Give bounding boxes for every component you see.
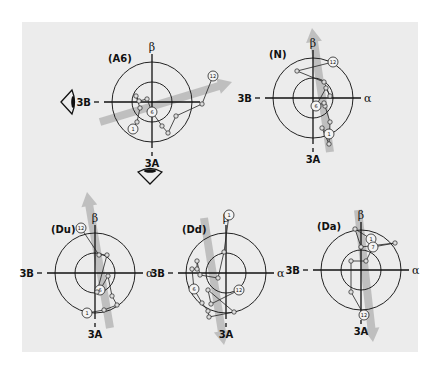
trace-point-label: 12 [330, 59, 336, 65]
panel-label: (N) [269, 49, 287, 60]
trace-point [320, 126, 324, 130]
axis-label-top: β [310, 37, 316, 50]
axis-label-left: 3B [19, 268, 34, 279]
axis-label-left: 3B [237, 93, 252, 104]
trace-point [216, 276, 220, 280]
trace-point-label: 6 [192, 286, 195, 292]
trace-point [206, 288, 210, 292]
trace-point-label: 12 [361, 312, 367, 318]
trace-point [349, 290, 353, 294]
trace-point [353, 227, 357, 231]
trace-point [95, 290, 99, 294]
trace-point [174, 114, 178, 118]
trace-point [295, 69, 299, 73]
trace-point [97, 253, 101, 257]
panel-a6: β3B3A(A6)1612 [76, 41, 232, 169]
direction-arrow [200, 217, 230, 345]
axis-label-top: β [149, 41, 155, 54]
trace-point-label: 1 [131, 126, 134, 132]
trace-point [102, 308, 106, 312]
eye-left-icon [61, 90, 75, 114]
trace-point-label: 12 [236, 287, 242, 293]
trace-point [209, 302, 213, 306]
trace-point [137, 99, 141, 103]
trace-point [190, 267, 194, 271]
axis-label-bottom: 3A [88, 329, 103, 340]
trace-point [206, 309, 210, 313]
axis-label-left: 3B [76, 97, 91, 108]
panel-label: (A6) [108, 53, 132, 64]
trace-point [115, 303, 119, 307]
trace-point [138, 106, 142, 110]
trace-point [322, 101, 326, 105]
axis-label-left: 3B [150, 268, 165, 279]
trace-point [145, 97, 149, 101]
axis-label-right: α [277, 267, 285, 280]
trace-point [328, 94, 332, 98]
trace-point [324, 86, 328, 90]
trace-point [200, 102, 204, 106]
trace-point [207, 315, 211, 319]
trace-point-label: 6 [150, 109, 153, 115]
trace-point [198, 273, 202, 277]
axis-label-bottom: 3A [306, 154, 321, 165]
trace-point [160, 124, 164, 128]
trace-point [105, 253, 109, 257]
axis-label-top: β [358, 209, 364, 222]
trace-point [322, 80, 326, 84]
panel-label: (Du) [51, 224, 76, 235]
trace-point-label: 1 [369, 236, 372, 242]
axis-label-bottom: 3A [354, 326, 369, 337]
trace-point [232, 310, 236, 314]
trace-point-label: 1 [227, 212, 230, 218]
polar-trace-figure: β3B3A(A6)1612β3B3Aα(N)1612β3B3Aα(Du)1612… [0, 0, 436, 374]
trace-point [328, 120, 332, 124]
trace-point [222, 250, 226, 254]
trace-point [166, 131, 170, 135]
trace-point-label: 12 [78, 225, 84, 231]
axis-label-right: α [412, 264, 420, 277]
axis-label-right: α [364, 92, 372, 105]
trace-point-label: 1 [327, 131, 330, 137]
panel-dd: β3B3Aα(Dd)1612 [150, 210, 285, 345]
eye-below-icon [138, 169, 162, 185]
trace-point [134, 94, 138, 98]
trace-point-label: 6 [314, 103, 317, 109]
axis-label-bottom: 3A [219, 329, 234, 340]
trace-point [393, 241, 397, 245]
axis-label-left: 3B [285, 265, 300, 276]
trace-point [359, 245, 363, 249]
panel-label: (Dd) [182, 224, 207, 235]
trace-point [195, 259, 199, 263]
trace-point-label: 12 [210, 73, 216, 79]
panel-label: (Da) [317, 221, 341, 232]
trace-point [195, 267, 199, 271]
trace-point [110, 294, 114, 298]
trace-point [327, 142, 331, 146]
trace-point [349, 259, 353, 263]
trace-point-label: 7 [371, 244, 374, 250]
panel-du: β3B3Aα(Du)1612 [19, 192, 154, 340]
trace-point [135, 120, 139, 124]
trace-point [200, 301, 204, 305]
trace-point [364, 259, 368, 263]
axis-label-top: β [92, 212, 98, 225]
panel-n: β3B3Aα(N)1612 [237, 28, 372, 165]
panel-da: β3B3Aα(Da)1712 [285, 209, 420, 342]
direction-arrow [354, 210, 379, 342]
trace-point [106, 274, 110, 278]
trace-point-label: 1 [85, 310, 88, 316]
axis-label-bottom: 3A [145, 158, 160, 169]
